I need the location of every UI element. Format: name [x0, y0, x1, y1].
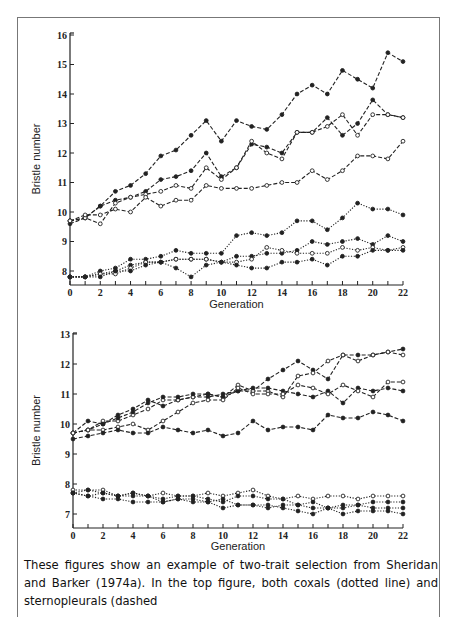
- chart1-data-point: [83, 275, 87, 279]
- chart1-data-point: [341, 133, 345, 137]
- chart2-x-tick-label: 2: [101, 530, 106, 541]
- chart1-data-point: [371, 113, 375, 117]
- chart2-data-point: [161, 404, 165, 408]
- chart2-x-axis-title: Generation: [211, 540, 265, 552]
- chart1-data-point: [250, 266, 254, 270]
- chart1-data-point: [265, 234, 269, 238]
- chart2-data-point: [296, 359, 300, 363]
- chart2-data-point: [236, 431, 240, 435]
- chart1-data-point: [295, 92, 299, 96]
- chart2-data-point: [86, 488, 90, 492]
- chart1-data-point: [356, 201, 360, 205]
- chart2-data-point: [236, 386, 240, 390]
- chart1-data-point: [356, 122, 360, 126]
- chart2-data-point: [101, 422, 105, 426]
- chart2-y-tick-label: 13: [60, 329, 70, 340]
- chart1-data-point: [204, 151, 208, 155]
- chart2-x-tick-label: 20: [368, 530, 378, 541]
- chart2-data-point: [161, 419, 165, 423]
- chart2-data-point: [371, 494, 375, 498]
- chart2-data-point: [296, 509, 300, 513]
- chart1-data-point: [280, 248, 284, 252]
- chart1-data-point: [114, 201, 118, 205]
- chart1-data-point: [174, 148, 178, 152]
- chart2-x-tick-label: 14: [278, 530, 288, 541]
- chart2-data-point: [401, 347, 405, 351]
- chart1-x-tick-label: 22: [398, 287, 408, 298]
- chart1-data-point: [250, 125, 254, 129]
- chart1-data-point: [159, 260, 163, 264]
- chart2-x-tick-label: 4: [131, 530, 136, 541]
- chart2-data-point: [311, 512, 315, 516]
- chart2-data-point: [326, 506, 330, 510]
- chart2-data-point: [266, 392, 270, 396]
- chart2-data-point: [146, 494, 150, 498]
- chart2-data-point: [296, 503, 300, 507]
- chart1-x-tick-label: 10: [216, 287, 226, 298]
- chart1-data-point: [386, 113, 390, 117]
- chart2-x-tick-label: 18: [338, 530, 348, 541]
- chart1-data-point: [159, 254, 163, 258]
- chart1-data-point: [174, 266, 178, 270]
- chart2-data-point: [176, 395, 180, 399]
- chart2-data-point: [161, 425, 165, 429]
- chart1-data-point: [250, 187, 254, 191]
- chart1-data-point: [219, 187, 223, 191]
- chart2-data-point: [266, 497, 270, 501]
- chart1-data-point: [219, 260, 223, 264]
- chart1-data-point: [325, 251, 329, 255]
- chart2-data-point: [296, 392, 300, 396]
- chart1-data-point: [280, 151, 284, 155]
- chart1-x-tick-label: 2: [98, 287, 103, 298]
- chart2-y-tick-label: 9: [65, 449, 70, 460]
- chart1-data-point: [219, 139, 223, 143]
- chart2-data-point: [341, 401, 345, 405]
- chart1-data-point: [310, 83, 314, 87]
- chart1-data-point: [159, 189, 163, 193]
- chart2-data-point: [236, 503, 240, 507]
- chart2-data-point: [281, 497, 285, 501]
- chart2-data-point: [311, 395, 315, 399]
- chart1-data-point: [189, 187, 193, 191]
- chart1-y-tick-label: 11: [58, 177, 67, 188]
- chart2-data-point: [146, 500, 150, 504]
- chart2-data-point: [401, 494, 405, 498]
- chart2-data-point: [206, 392, 210, 396]
- chart1-data-point: [295, 260, 299, 264]
- chart2-data-point: [356, 416, 360, 420]
- chart1-data-point: [341, 254, 345, 258]
- chart2-data-point: [356, 503, 360, 507]
- chart2-data-point: [86, 434, 90, 438]
- chart1-data-point: [189, 275, 193, 279]
- chart2-data-point: [356, 359, 360, 363]
- chart2-data-point: [176, 428, 180, 432]
- chart1-data-point: [356, 248, 360, 252]
- chart2-data-point: [311, 500, 315, 504]
- chart2-data-point: [161, 500, 165, 504]
- chart2-data-point: [71, 437, 75, 441]
- chart1-data-point: [356, 237, 360, 241]
- chart2-x-tick-label: 0: [71, 530, 76, 541]
- chart2-data-point: [281, 392, 285, 396]
- chart2-data-point: [341, 512, 345, 516]
- chart2-data-point: [326, 392, 330, 396]
- chart1-data-point: [386, 248, 390, 252]
- chart2-data-point: [101, 431, 105, 435]
- chart2-data-point: [116, 497, 120, 501]
- chart2-data-point: [116, 416, 120, 420]
- chart1-data-point: [310, 169, 314, 173]
- chart1-data-point: [189, 198, 193, 202]
- chart1-data-point: [144, 172, 148, 176]
- chart1-x-axis-title: Generation: [209, 298, 263, 310]
- chart1-data-point: [310, 257, 314, 261]
- chart2-data-point: [266, 503, 270, 507]
- chart1-data-point: [204, 184, 208, 188]
- chart1-data-point: [144, 195, 148, 199]
- chart1-data-point: [98, 222, 102, 226]
- chart1-y-tick-label: 15: [57, 59, 67, 70]
- chart1-data-point: [310, 219, 314, 223]
- chart2-data-point: [266, 386, 270, 390]
- chart1-data-point: [341, 240, 345, 244]
- chart2-data-point: [281, 368, 285, 372]
- chart1-data-point: [204, 119, 208, 123]
